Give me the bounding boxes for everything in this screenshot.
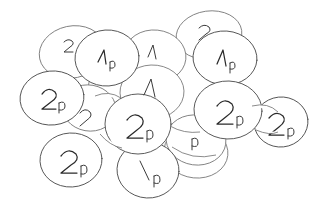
sketch-canvas — [0, 0, 315, 213]
coin-pile-sketch: Hand-drawn sketch of a pile of overlappi… — [0, 0, 315, 213]
coin-bottom-left-2p — [39, 131, 104, 188]
